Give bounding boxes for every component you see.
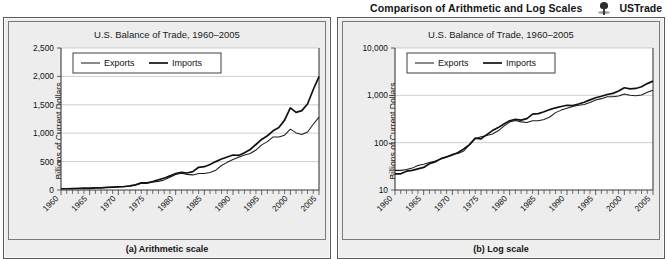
x-tick-label: 1970 [99, 194, 119, 214]
x-tick-label: 2005 [633, 194, 653, 214]
chart-svg-log[interactable]: 101001,00010,000196019651970197519801985… [343, 22, 665, 230]
figure-row: U.S. Balance of Trade, 1960–2005 Billion… [0, 17, 668, 259]
y-tick-label: 1,000 [367, 90, 388, 100]
x-tick-label: 1975 [461, 194, 481, 214]
x-tick-label: 1965 [70, 194, 90, 214]
legend-label-imports: Imports [172, 58, 203, 68]
x-tick-label: 2000 [605, 194, 625, 214]
x-tick-label: 1960 [375, 194, 395, 214]
chart-svg-arithmetic[interactable]: 05001,0001,5002,0002,5001960196519701975… [9, 22, 331, 230]
figure-caption-b: (b) Log scale [338, 242, 664, 258]
x-tick-label: 1980 [490, 194, 510, 214]
chart-card-log: U.S. Balance of Trade, 1960–2005 Billion… [342, 21, 660, 240]
dataset-name-label: USTrade [619, 2, 662, 14]
x-tick-label: 1980 [156, 194, 176, 214]
figure-panel-log: U.S. Balance of Trade, 1960–2005 Billion… [337, 17, 665, 259]
chart-card-arithmetic: U.S. Balance of Trade, 1960–2005 Billion… [8, 21, 326, 240]
pushpin-icon[interactable] [596, 2, 613, 15]
y-tick-label: 1,000 [33, 128, 54, 138]
figure-panel-arithmetic: U.S. Balance of Trade, 1960–2005 Billion… [3, 17, 331, 259]
legend-label-exports: Exports [104, 58, 135, 68]
y-tick-label: 2,000 [33, 71, 54, 81]
y-tick-label: 10 [379, 185, 389, 195]
x-tick-label: 1975 [127, 194, 147, 214]
page-title: Comparison of Arithmetic and Log Scales [370, 2, 582, 14]
x-tick-label: 1985 [185, 194, 205, 214]
x-tick-label: 2005 [299, 194, 319, 214]
y-tick-label: 100 [374, 138, 388, 148]
figure-caption-a: (a) Arithmetic scale [4, 242, 330, 258]
x-tick-label: 1990 [213, 194, 233, 214]
x-tick-label: 1995 [242, 194, 262, 214]
y-tick-label: 10,000 [362, 43, 388, 53]
x-tick-label: 1985 [519, 194, 539, 214]
x-tick-label: 1970 [433, 194, 453, 214]
y-tick-label: 2,500 [33, 43, 54, 53]
y-tick-label: 1,500 [33, 100, 54, 110]
x-tick-label: 1995 [576, 194, 596, 214]
x-tick-label: 1960 [41, 194, 61, 214]
x-tick-label: 2000 [271, 194, 291, 214]
toolbar-header: Comparison of Arithmetic and Log Scales … [0, 0, 668, 16]
x-tick-label: 1990 [547, 194, 567, 214]
legend-label-imports: Imports [506, 58, 537, 68]
legend-label-exports: Exports [438, 58, 469, 68]
y-tick-label: 0 [49, 185, 54, 195]
y-tick-label: 500 [40, 157, 54, 167]
x-tick-label: 1965 [404, 194, 424, 214]
